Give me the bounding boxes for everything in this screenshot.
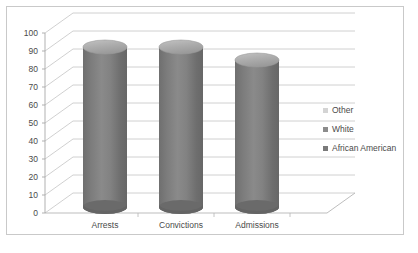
legend-label-african-american: African American — [332, 143, 397, 153]
legend-item-white[interactable]: White — [323, 124, 354, 134]
legend-swatch-african-american — [323, 146, 328, 151]
chart-plot-area: 100 90 80 70 60 50 40 30 20 10 0 — [7, 7, 405, 236]
chart-legend: Other White African American — [323, 105, 397, 153]
y-tick-60: 60 — [29, 100, 39, 110]
x-axis-ticks — [138, 213, 290, 217]
y-tick-50: 50 — [29, 118, 39, 128]
bar-arrests[interactable] — [83, 40, 127, 214]
chart-frame: 100 90 80 70 60 50 40 30 20 10 0 — [6, 6, 404, 235]
bar-chart-svg: 100 90 80 70 60 50 40 30 20 10 0 — [7, 7, 405, 236]
legend-item-other[interactable]: Other — [323, 105, 353, 115]
y-tick-70: 70 — [29, 82, 39, 92]
y-tick-10: 10 — [29, 190, 39, 200]
legend-swatch-other — [323, 108, 328, 113]
y-axis — [42, 33, 45, 213]
y-tick-40: 40 — [29, 136, 39, 146]
x-label-admissions: Admissions — [235, 220, 278, 230]
y-tick-labels: 100 90 80 70 60 50 40 30 20 10 0 — [24, 28, 38, 218]
y-tick-20: 20 — [29, 172, 39, 182]
bar-admissions[interactable] — [235, 53, 279, 214]
x-tick-labels: Arrests Convictions Admissions — [92, 220, 279, 230]
legend-swatch-white — [323, 127, 328, 132]
y-tick-0: 0 — [33, 208, 38, 218]
y-tick-30: 30 — [29, 154, 39, 164]
legend-label-white: White — [332, 124, 354, 134]
depth-lines — [45, 13, 73, 213]
bar-convictions[interactable] — [159, 40, 203, 214]
legend-label-other: Other — [332, 105, 353, 115]
x-label-convictions: Convictions — [159, 220, 203, 230]
x-label-arrests: Arrests — [92, 220, 119, 230]
y-tick-100: 100 — [24, 28, 38, 38]
legend-item-african-american[interactable]: African American — [323, 143, 397, 153]
y-tick-80: 80 — [29, 64, 39, 74]
y-tick-90: 90 — [29, 46, 39, 56]
